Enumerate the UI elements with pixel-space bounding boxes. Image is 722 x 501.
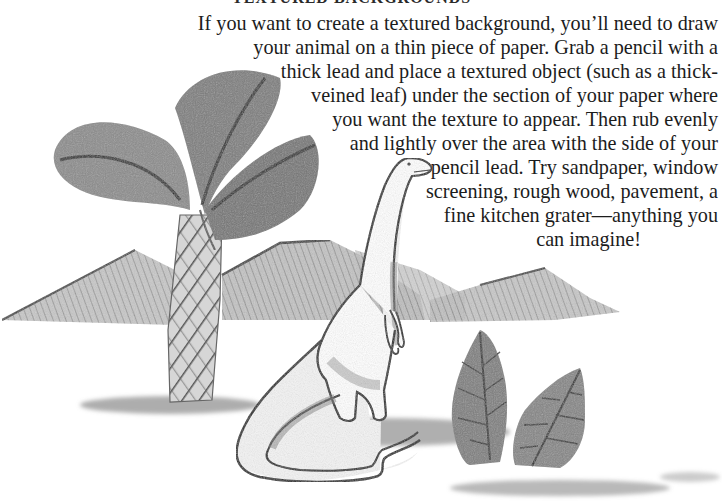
ground-shadow xyxy=(80,396,720,496)
mountains xyxy=(2,240,620,325)
palm-tree-trunk xyxy=(168,215,222,402)
dinosaur-illustration xyxy=(0,0,722,501)
leaf-rubbings xyxy=(452,330,585,468)
